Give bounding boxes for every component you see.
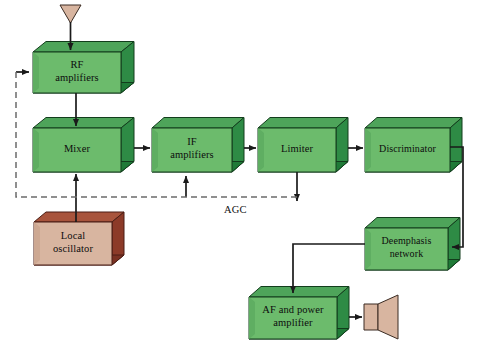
block-rf-amplifiers[interactable]	[33, 42, 134, 94]
block-deemphasis-network[interactable]	[365, 218, 460, 271]
fm-receiver-block-diagram: RF amplifiers Mixer IF amplifiers Limite…	[0, 0, 482, 355]
block-bodies	[33, 5, 462, 339]
diagram-vector-layer	[0, 0, 482, 355]
block-mixer[interactable]	[33, 118, 134, 173]
antenna-icon	[60, 5, 81, 23]
block-discriminator[interactable]	[365, 118, 462, 173]
line-deemphasis-to-af	[293, 244, 365, 293]
loudspeaker-icon	[364, 295, 398, 339]
block-limiter[interactable]	[258, 118, 348, 173]
agc-label: AGC	[224, 204, 247, 215]
block-local-oscillator[interactable]	[34, 212, 124, 265]
block-if-amplifiers[interactable]	[152, 118, 244, 173]
block-af-power-amplifier[interactable]	[249, 287, 349, 340]
